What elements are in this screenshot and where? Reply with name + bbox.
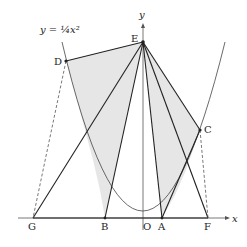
label-E: E	[131, 33, 138, 44]
diagram: y = ¼x² y x D E C G B O A F	[0, 0, 247, 247]
x-axis-label: x	[232, 213, 238, 224]
y-axis-label: y	[138, 9, 145, 20]
y-axis-arrow	[141, 23, 145, 28]
label-C: C	[204, 124, 212, 135]
label-A: A	[157, 221, 166, 232]
x-axis-arrow	[225, 216, 230, 220]
label-G: G	[28, 221, 36, 232]
shaded-region-left	[66, 42, 143, 218]
label-O: O	[143, 221, 151, 232]
dashed-DG	[33, 61, 66, 218]
label-D: D	[54, 56, 62, 67]
label-F: F	[204, 221, 211, 232]
curve-label: y = ¼x²	[39, 24, 80, 35]
geometry-figure: y = ¼x² y x D E C G B O A F	[0, 0, 247, 247]
label-B: B	[101, 221, 108, 232]
dashed-CF	[200, 130, 208, 218]
shaded-region-right	[143, 42, 200, 218]
